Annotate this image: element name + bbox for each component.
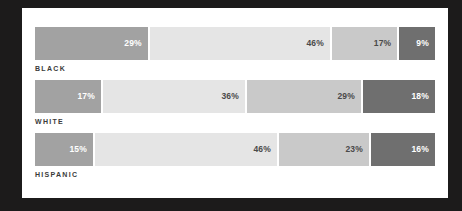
bar-category-label: HISPANIC xyxy=(35,171,435,178)
bar-segment-value: 15% xyxy=(69,145,93,154)
stacked-bar-track: 15% 46% 23% 16% xyxy=(35,133,435,166)
stacked-bar-track: 17% 36% 29% 18% xyxy=(35,80,435,113)
bar-segment-value: 46% xyxy=(253,145,277,154)
bar-segment[interactable]: 18% xyxy=(363,80,435,113)
bar-segment-value: 17% xyxy=(374,39,398,48)
bar-segment[interactable]: 36% xyxy=(103,80,247,113)
bar-segment[interactable]: 15% xyxy=(35,133,95,166)
bar-segment-value: 46% xyxy=(306,39,330,48)
bar-segment[interactable]: 17% xyxy=(332,27,399,60)
bar-category-label: BLACK xyxy=(35,65,435,72)
stacked-bar-track: 29% 46% 17% 9% xyxy=(35,27,435,60)
bar-segment[interactable]: 23% xyxy=(279,133,371,166)
bar-segment-value: 36% xyxy=(221,92,245,101)
bar-segment-value: 23% xyxy=(345,145,369,154)
bar-segment-value: 18% xyxy=(411,92,435,101)
bar-segment-value: 17% xyxy=(77,92,101,101)
bar-segment-value: 9% xyxy=(416,39,435,48)
bar-segment[interactable]: 29% xyxy=(247,80,363,113)
bar-segment[interactable]: 46% xyxy=(95,133,279,166)
bar-group: 29% 46% 17% 9% BLACK xyxy=(35,27,435,72)
bar-category-label: WHITE xyxy=(35,118,435,125)
bar-group: 15% 46% 23% 16% HISPANIC xyxy=(35,133,435,178)
bar-segment-value: 16% xyxy=(411,145,435,154)
bar-group: 17% 36% 29% 18% WHITE xyxy=(35,80,435,125)
bar-segment[interactable]: 17% xyxy=(35,80,103,113)
bar-segment[interactable]: 29% xyxy=(35,27,150,60)
bar-segment-value: 29% xyxy=(337,92,361,101)
bar-segment[interactable]: 9% xyxy=(399,27,435,60)
bar-segment-value: 29% xyxy=(124,39,148,48)
chart-card: 29% 46% 17% 9% BLACK 17% 36% xyxy=(22,8,448,198)
bar-segment[interactable]: 46% xyxy=(150,27,332,60)
bar-segment[interactable]: 16% xyxy=(371,133,435,166)
chart-frame: 29% 46% 17% 9% BLACK 17% 36% xyxy=(0,0,462,211)
